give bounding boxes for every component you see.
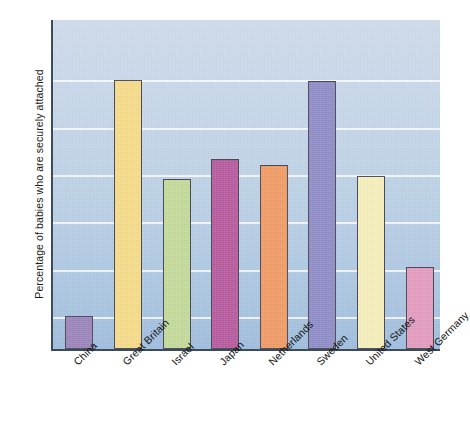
bar-texture — [261, 166, 287, 348]
gridline — [53, 128, 440, 130]
bar — [260, 165, 288, 349]
bar-texture — [212, 160, 238, 348]
y-axis-title: Percentage of babies who are securely at… — [33, 39, 45, 329]
bar-texture — [309, 82, 335, 348]
gridline — [53, 80, 440, 82]
bar-texture — [358, 177, 384, 348]
plot-area — [51, 20, 440, 351]
bar — [406, 267, 434, 349]
bar — [357, 176, 385, 349]
bar-texture — [115, 81, 141, 348]
bar-texture — [407, 268, 433, 348]
bar — [211, 159, 239, 349]
bar — [114, 80, 142, 349]
bar — [308, 81, 336, 349]
